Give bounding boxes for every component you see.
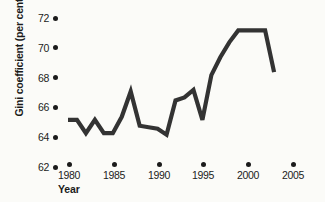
x-tick-1995: 1995 — [192, 162, 214, 181]
x-tick-dot-icon — [201, 162, 206, 167]
x-tick-2000: 2000 — [237, 162, 259, 181]
x-tick-dot-icon — [112, 162, 117, 167]
x-tick-dot-icon — [157, 162, 162, 167]
x-tick-label: 1990 — [148, 169, 170, 181]
gini-coefficient-line-chart: Gini coefficient (per cent) 72 70 68 66 … — [0, 0, 325, 202]
x-tick-2005: 2005 — [282, 162, 304, 181]
x-tick-dot-icon — [67, 162, 72, 167]
x-tick-1990: 1990 — [148, 162, 170, 181]
x-tick-label: 1995 — [192, 169, 214, 181]
x-tick-label: 1980 — [58, 169, 80, 181]
x-axis-title: Year — [58, 183, 80, 195]
x-tick-1980: 1980 — [58, 162, 80, 181]
x-tick-dot-icon — [291, 162, 296, 167]
x-tick-label: 2000 — [237, 169, 259, 181]
x-tick-dot-icon — [246, 162, 251, 167]
x-tick-label: 2005 — [282, 169, 304, 181]
x-tick-label: 1985 — [103, 169, 125, 181]
x-tick-1985: 1985 — [103, 162, 125, 181]
